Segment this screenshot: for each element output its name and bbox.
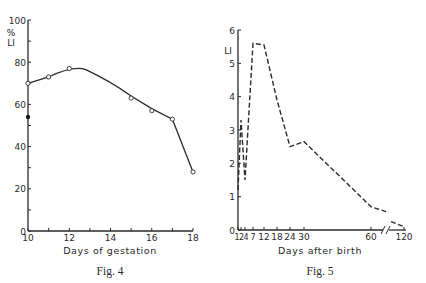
y-tick-label: 1 (229, 192, 235, 202)
series-line (28, 68, 193, 171)
figure-4: 0204060801001012141618%LIDays of gestati… (7, 16, 199, 279)
x-tick-label: 18 (271, 232, 283, 242)
y-tick-label: 20 (15, 184, 27, 194)
y-tick-label: 3 (229, 126, 235, 136)
x-tick-label: 12 (258, 232, 269, 242)
open-circle-marker (150, 109, 154, 113)
figure-caption: Fig. 5 (307, 265, 334, 278)
x-axis-title: Days of gestation (63, 245, 157, 256)
x-tick-label: 24 (284, 232, 296, 242)
series-line-dashed-after-break (391, 222, 404, 227)
y-tick-label: 80 (15, 58, 27, 68)
y-tick-label: 60 (15, 100, 27, 110)
filled-circle-marker (26, 115, 30, 119)
open-circle-marker (47, 75, 51, 79)
x-tick-label: 60 (365, 232, 377, 242)
y-tick-label: 4 (229, 92, 235, 102)
x-tick-label: 14 (105, 233, 117, 243)
figure-5: 0123456LI12471218243060120Days after bir… (224, 26, 413, 279)
open-circle-marker (129, 96, 133, 100)
y-tick-label: 2 (229, 159, 235, 169)
x-tick-label: 18 (187, 233, 199, 243)
open-circle-marker (170, 117, 174, 121)
y-axis-label-li: LI (7, 38, 15, 48)
x-tick-label: 120 (395, 232, 412, 242)
y-tick-label: 100 (9, 16, 26, 26)
x-tick-label: 10 (22, 233, 34, 243)
open-circle-marker (67, 66, 71, 70)
y-tick-label: 6 (229, 26, 235, 36)
x-axis-title: Days after birth (278, 245, 362, 256)
x-tick-label: 30 (298, 232, 310, 242)
y-tick-label: 5 (229, 59, 235, 69)
x-tick-label: 12 (64, 233, 75, 243)
open-circle-marker (26, 81, 30, 85)
series-line-dashed (238, 43, 386, 211)
figures-canvas: 0204060801001012141618%LIDays of gestati… (0, 0, 426, 283)
x-tick-label: 7 (250, 233, 255, 242)
open-circle-marker (191, 170, 195, 174)
y-axis-label: LI (224, 46, 232, 56)
figure-caption: Fig. 4 (97, 265, 124, 278)
x-tick-label: 16 (146, 233, 158, 243)
y-axis-label-percent: % (7, 28, 16, 38)
x-tick-label: 4 (243, 233, 248, 242)
y-tick-label: 40 (15, 142, 27, 152)
